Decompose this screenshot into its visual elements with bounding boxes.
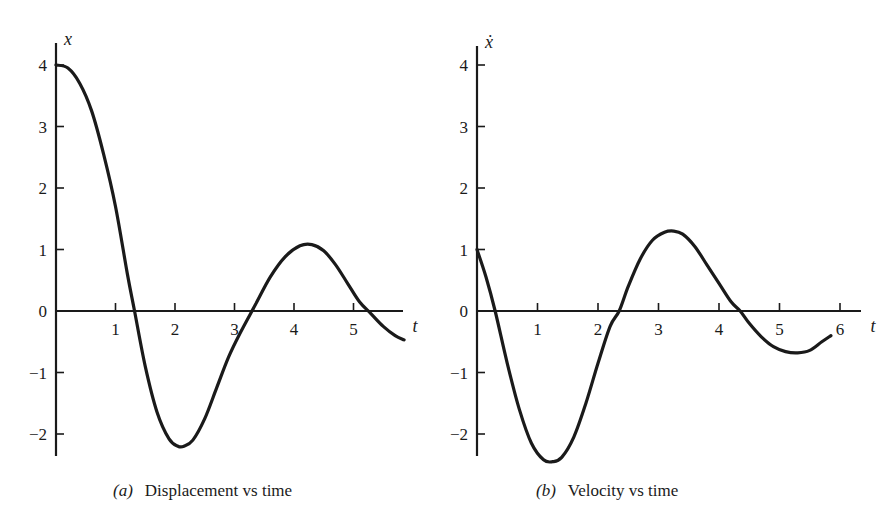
y-tick-label: −2 xyxy=(450,425,468,444)
velocity-chart: 43210−1−2123456tẋ xyxy=(450,32,877,462)
x-tick-label: 5 xyxy=(775,320,784,339)
y-tick-label: 4 xyxy=(39,56,48,75)
x-tick-label: 6 xyxy=(836,320,845,339)
caption-label-b: (b) xyxy=(536,481,556,500)
y-tick-label: 0 xyxy=(39,302,48,321)
caption-velocity: (b)Velocity vs time xyxy=(536,481,678,501)
figure-canvas: 43210−1−212345tx 43210−1−2123456tẋ xyxy=(0,0,882,529)
caption-text-b: Velocity vs time xyxy=(568,481,678,500)
x-tick-label: 3 xyxy=(654,320,663,339)
caption-displacement: (a)Displacement vs time xyxy=(113,481,292,501)
x-tick-label: 4 xyxy=(715,320,724,339)
y-tick-label: 2 xyxy=(460,179,469,198)
data-curve xyxy=(56,65,404,447)
x-axis-label: t xyxy=(870,316,876,336)
x-tick-label: 1 xyxy=(111,320,120,339)
y-tick-label: 2 xyxy=(39,179,48,198)
displacement-chart: 43210−1−212345tx xyxy=(29,29,419,456)
x-axis-label: t xyxy=(412,316,418,336)
y-tick-label: 3 xyxy=(460,118,469,137)
y-tick-label: −1 xyxy=(29,364,47,383)
y-tick-label: 4 xyxy=(460,56,469,75)
y-tick-label: 1 xyxy=(460,241,469,260)
x-tick-label: 2 xyxy=(594,320,603,339)
y-tick-label: 1 xyxy=(39,241,48,260)
x-tick-label: 2 xyxy=(171,320,180,339)
y-tick-label: −1 xyxy=(450,364,468,383)
y-axis-label: ẋ xyxy=(484,32,493,52)
y-axis-label: x xyxy=(63,29,72,49)
caption-text-a: Displacement vs time xyxy=(145,481,292,500)
x-tick-label: 1 xyxy=(533,320,542,339)
x-tick-label: 4 xyxy=(290,320,299,339)
y-tick-label: −2 xyxy=(29,425,47,444)
data-curve xyxy=(477,231,831,462)
x-tick-label: 5 xyxy=(349,320,358,339)
caption-label-a: (a) xyxy=(113,481,133,500)
y-tick-label: 0 xyxy=(460,302,469,321)
y-tick-label: 3 xyxy=(39,118,48,137)
